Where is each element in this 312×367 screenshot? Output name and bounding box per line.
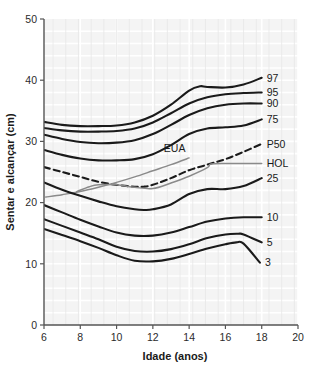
y-axis-title: Sentar e alcançar (cm) xyxy=(4,113,16,231)
y-tick-label: 20 xyxy=(25,196,37,208)
series-label-p50: P50 xyxy=(267,138,286,150)
x-tick-label: 8 xyxy=(77,331,83,343)
series-label-10: 10 xyxy=(267,211,279,223)
x-axis-title: Idade (anos) xyxy=(143,350,208,362)
series-label-97: 97 xyxy=(267,72,279,84)
x-tick-label: 6 xyxy=(41,331,47,343)
plot-background xyxy=(44,19,298,325)
y-tick-label: 50 xyxy=(25,13,37,25)
series-label-5: 5 xyxy=(267,236,273,248)
x-tick-label: 18 xyxy=(256,331,268,343)
y-tick-label: 10 xyxy=(25,258,37,270)
y-tick-label: 30 xyxy=(25,135,37,147)
sit-and-reach-percentile-chart: 6810121416182001020304050 97959075P50HOL… xyxy=(0,0,312,367)
chart-annotations: EUA xyxy=(164,142,186,154)
chart-container: 6810121416182001020304050 97959075P50HOL… xyxy=(0,0,312,367)
series-label-90: 90 xyxy=(267,97,279,109)
series-label-25: 25 xyxy=(267,172,279,184)
y-tick-label: 0 xyxy=(31,319,37,331)
y-tick-label: 40 xyxy=(25,74,37,86)
x-tick-label: 16 xyxy=(220,331,232,343)
series-label-75: 75 xyxy=(267,113,279,125)
series-label-3: 3 xyxy=(265,256,271,268)
series-label-hol: HOL xyxy=(267,157,289,169)
x-tick-label: 10 xyxy=(111,331,123,343)
x-tick-label: 12 xyxy=(147,331,159,343)
x-tick-label: 20 xyxy=(292,331,304,343)
x-tick-label: 14 xyxy=(183,331,195,343)
annotation-eua: EUA xyxy=(164,142,186,154)
